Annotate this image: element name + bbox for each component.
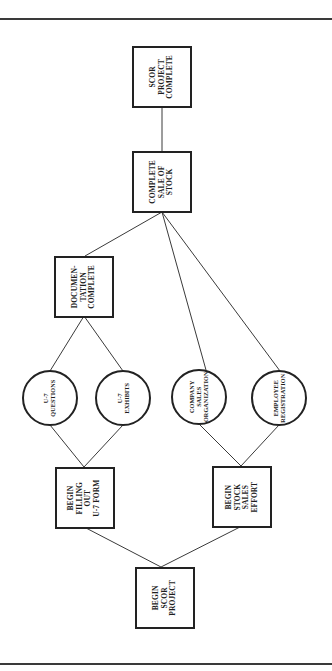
node-label: EMPLOYEE REGISTRATION: [272, 374, 286, 423]
node-label: BEGIN FILLING OUT U-7 FORM: [68, 479, 102, 516]
node-label: BEGIN SCOR PROJECT: [152, 580, 178, 616]
label-line: EFFORT: [251, 482, 260, 513]
node-company-sales-organization: COMPANY SALES ORGANIZATION: [171, 369, 227, 425]
node-begin-filling-out-u7-form: BEGIN FILLING OUT U-7 FORM: [55, 467, 115, 529]
label-line: COMPLETE: [166, 55, 175, 99]
node-label: U-7 EXHIBITS: [116, 383, 130, 414]
label-line: PROJECT: [169, 580, 178, 616]
node-complete-sale-of-stock: COMPLETE SALE OF STOCK: [132, 151, 192, 213]
label-line: EMPLOYEE: [272, 374, 279, 423]
label-line: ORGANIZATION: [203, 372, 210, 423]
label-line: EXHIBITS: [123, 383, 130, 414]
node-label: COMPANY SALES ORGANIZATION: [188, 372, 210, 423]
edge-u7-form-to-exhibits: [84, 425, 123, 467]
label-line: QUESTIONS: [50, 379, 57, 416]
node-label: DOCUMEN- TATION COMPLETE: [71, 265, 97, 309]
node-scor-project-complete: SCOR PROJECT COMPLETE: [132, 46, 192, 108]
node-u7-questions: U-7 QUESTIONS: [22, 370, 78, 426]
node-employee-registration: EMPLOYEE REGISTRATION: [251, 370, 307, 426]
edge-u7-form-to-questions: [50, 425, 84, 467]
edge-stock-sales-to-employee-reg: [241, 425, 279, 466]
label-line: BEGIN: [225, 482, 234, 513]
label-line: COMPANY: [188, 372, 195, 423]
label-line: STOCK: [166, 160, 175, 204]
edge-stock-sales-to-company-org: [199, 424, 241, 466]
edge-begin-scor-to-stock-sales: [161, 527, 240, 567]
label-line: SALES: [195, 372, 202, 423]
node-begin-stock-sales-effort: BEGIN STOCK SALES EFFORT: [212, 466, 272, 528]
edge-documentation-to-complete-sale: [85, 212, 162, 256]
node-begin-scor-project: BEGIN SCOR PROJECT: [135, 567, 195, 629]
node-documentation-complete: DOCUMEN- TATION COMPLETE: [54, 256, 114, 318]
node-u7-exhibits: U-7 EXHIBITS: [95, 370, 151, 426]
edge-questions-to-documentation: [50, 316, 84, 371]
node-label: U-7 QUESTIONS: [43, 379, 57, 416]
label-line: COMPLETE: [88, 265, 97, 309]
node-label: COMPLETE SALE OF STOCK: [149, 160, 175, 204]
label-line: U-7: [116, 383, 123, 414]
edge-exhibits-to-documentation: [84, 316, 123, 371]
edge-employee-reg-to-complete-sale: [162, 212, 280, 371]
edge-company-org-to-complete-sale: [162, 212, 206, 370]
node-label: SCOR PROJECT COMPLETE: [149, 55, 175, 99]
label-line: REGISTRATION: [279, 374, 286, 423]
edge-begin-scor-to-u7-form: [86, 528, 161, 567]
label-line: U-7 FORM: [94, 479, 103, 516]
node-label: BEGIN STOCK SALES EFFORT: [225, 482, 259, 513]
